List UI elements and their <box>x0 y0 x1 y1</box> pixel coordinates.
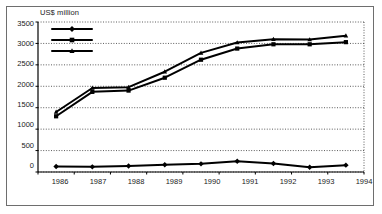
chart-figure: US$ million 3500 3000 2500 2000 1500 100… <box>0 0 382 214</box>
chart-plot <box>0 0 382 214</box>
